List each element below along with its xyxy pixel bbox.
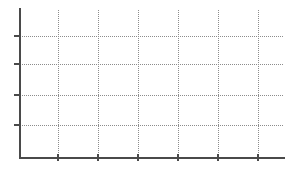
- y-axis-tick: [14, 35, 21, 37]
- y-axis-tick: [14, 94, 21, 96]
- gridline-vertical: [58, 10, 59, 157]
- y-axis-tick: [14, 124, 21, 126]
- gridline-vertical: [218, 10, 219, 157]
- x-axis-tick: [97, 154, 99, 161]
- gridline-vertical: [138, 10, 139, 157]
- x-axis-tick: [177, 154, 179, 161]
- gridline-vertical: [258, 10, 259, 157]
- plot-area: [0, 0, 288, 169]
- y-axis-tick: [14, 63, 21, 65]
- y-axis-line: [19, 8, 21, 159]
- gridline-vertical: [178, 10, 179, 157]
- x-axis-tick: [57, 154, 59, 161]
- x-axis-tick: [137, 154, 139, 161]
- chart-figure: [0, 0, 288, 169]
- x-axis-tick: [257, 154, 259, 161]
- x-axis-tick: [217, 154, 219, 161]
- gridline-vertical: [98, 10, 99, 157]
